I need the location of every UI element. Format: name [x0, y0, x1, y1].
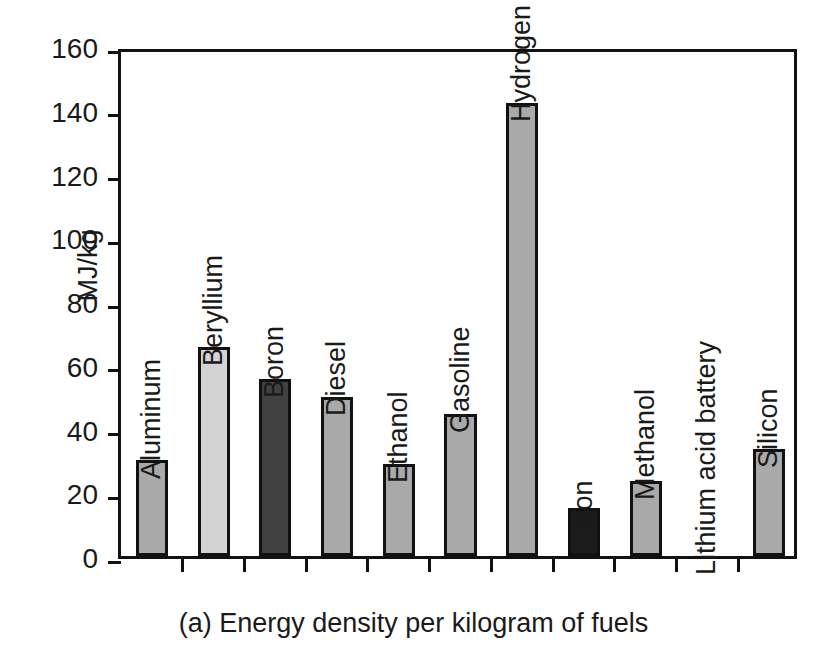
y-axis-tick-label: 60: [28, 354, 98, 382]
y-axis-tick-mark: [108, 497, 121, 500]
y-axis-tick-label: 80: [28, 290, 98, 318]
y-axis-tick-label: 20: [28, 481, 98, 509]
y-axis-tick-label: 0: [28, 545, 98, 573]
y-axis-tick-label: 100: [28, 226, 98, 254]
x-axis-tick-mark: [552, 556, 555, 572]
x-axis-tick-mark: [181, 556, 184, 572]
category-label: Diesel: [323, 341, 350, 416]
category-label: Iron: [570, 481, 597, 528]
x-axis-tick-mark: [243, 556, 246, 572]
category-label: Hydrogen (l): [508, 0, 535, 122]
y-axis-tick-mark: [108, 114, 121, 117]
category-label: Beryllium: [200, 255, 227, 366]
y-axis-tick-label: 160: [28, 35, 98, 63]
bar: [259, 379, 291, 556]
category-label: Silicon: [755, 389, 782, 469]
plot-area: AluminumBerylliumBoronDieselEthanolGasol…: [118, 49, 797, 559]
bar: [198, 347, 230, 556]
y-axis-tick-label: 120: [28, 163, 98, 191]
bar: [321, 397, 353, 556]
x-axis-tick-mark: [305, 556, 308, 572]
category-label: Boron: [261, 326, 288, 398]
x-axis-tick-mark: [613, 556, 616, 572]
y-axis-tick-label: 140: [28, 99, 98, 127]
category-label: Methanol: [632, 389, 659, 500]
y-axis-tick-mark: [108, 369, 121, 372]
y-axis-tick-mark: [108, 51, 121, 54]
energy-density-bar-chart: MJ/kg 020406080100120140160 AluminumBery…: [0, 0, 827, 666]
category-label: Ethanol: [385, 391, 412, 483]
x-axis-tick-mark: [490, 556, 493, 572]
x-axis-tick-mark: [366, 556, 369, 572]
bar: [506, 103, 538, 556]
x-axis-tick-mark: [737, 556, 740, 572]
x-axis-tick-mark: [428, 556, 431, 572]
x-axis-tick-mark: [675, 556, 678, 572]
y-axis-tick-mark: [108, 561, 121, 564]
y-axis-tick-label: 40: [28, 418, 98, 446]
category-label: Gasoline: [447, 327, 474, 434]
y-axis-tick-mark: [108, 306, 121, 309]
y-axis-tick-mark: [108, 242, 121, 245]
y-axis-tick-mark: [108, 433, 121, 436]
category-label: Aluminum: [138, 359, 165, 479]
y-axis-tick-mark: [108, 178, 121, 181]
bar: [444, 414, 476, 556]
figure-caption: (a) Energy density per kilogram of fuels: [0, 608, 827, 639]
category-label: Lithium acid battery: [693, 341, 720, 575]
